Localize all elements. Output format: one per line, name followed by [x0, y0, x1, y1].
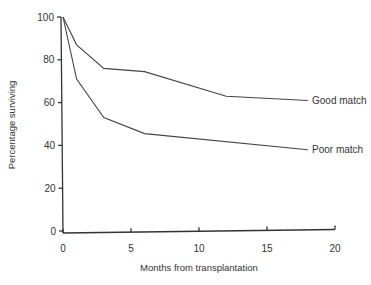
poor-match-label: Poor match — [312, 144, 363, 155]
x-tick-label: 0 — [60, 243, 66, 254]
y-tick-label: 40 — [44, 140, 56, 151]
y-tick-label: 20 — [44, 183, 56, 194]
x-tick-label: 20 — [329, 243, 341, 254]
x-tick-label: 10 — [193, 243, 205, 254]
y-tick-label: 80 — [43, 54, 55, 65]
good-match-label: Good match — [312, 95, 366, 106]
survival-chart: 020406080100 05101520 Good match Poor ma… — [0, 0, 371, 285]
y-axis-title: Percentage surviving — [6, 81, 17, 170]
x-axis-title: Months from transplantation — [140, 262, 258, 273]
axes — [61, 17, 335, 233]
y-tick-label: 100 — [37, 12, 54, 23]
good-match-line — [63, 17, 308, 101]
x-tick-label: 15 — [261, 243, 273, 254]
y-axis — [61, 17, 63, 233]
x-tick-label: 5 — [128, 243, 134, 254]
y-tick-label: 0 — [50, 226, 56, 237]
y-ticks: 020406080100 — [37, 12, 63, 237]
y-tick-label: 60 — [44, 97, 56, 108]
